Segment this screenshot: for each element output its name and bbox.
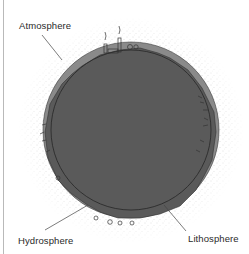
earth-spheres-diagram [0, 0, 249, 254]
hydrosphere-label: Hydrosphere [18, 235, 74, 246]
atmosphere-label: Atmosphere [19, 20, 71, 31]
lithosphere-label: Lithosphere [188, 233, 239, 244]
